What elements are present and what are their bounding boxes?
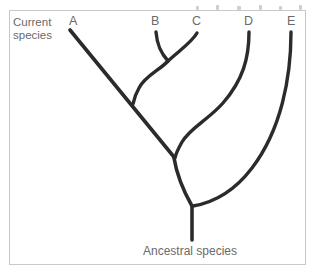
tip-label-b: B xyxy=(151,15,159,28)
tip-label-c: C xyxy=(192,15,201,28)
phylogenetic-tree-figure: Current species A B C D E Ancestral spec… xyxy=(0,0,316,274)
branch-b xyxy=(156,32,168,61)
branch-c xyxy=(168,33,197,61)
branch-d xyxy=(175,32,249,158)
tip-label-d: D xyxy=(244,15,253,28)
tip-label-a: A xyxy=(69,15,77,28)
current-species-label: Current species xyxy=(13,16,52,42)
stem-bc xyxy=(133,61,168,104)
ancestral-species-label: Ancestral species xyxy=(143,245,237,257)
current-species-label-line2: species xyxy=(13,29,52,42)
current-species-label-line1: Current xyxy=(13,16,52,29)
stem-abcd xyxy=(174,158,192,206)
tip-label-e: E xyxy=(287,15,295,28)
